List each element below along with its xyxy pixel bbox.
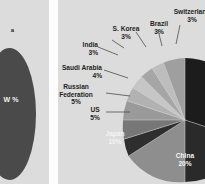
label-saudi-arabia-pct: 4% [58,72,102,80]
label-india-name: India [83,41,98,48]
label-india-pct: 3% [58,49,98,57]
label-russian-federation: Russian Federation 5% [58,83,104,106]
label-s-korea-pct: 3% [106,33,146,41]
label-india: India 3% [58,41,98,56]
left-pie-slice-name: W [4,96,11,103]
left-pie-slice-label: W % [0,96,24,105]
label-russian-federation-name2: Federation [58,91,104,99]
label-china-pct: 20% [168,160,202,168]
left-panel-top-label: a [0,27,14,34]
pie-chart-figure: a W % [0,0,205,184]
label-s-korea-name: S. Korea [113,25,140,32]
label-switzerland: Switzerland 3% [170,8,205,23]
label-switzerland-name: Switzerland [174,8,205,15]
label-us-pct: 5% [82,114,108,122]
label-saudi-arabia-name: Saudi Arabia [62,64,102,71]
panel-divider [49,0,58,184]
label-us-name: US [90,106,99,113]
left-pie-slice [0,48,36,180]
label-saudi-arabia: Saudi Arabia 4% [58,64,102,79]
label-japan-pct: 10% [98,138,132,146]
label-brazil-pct: 3% [144,28,174,36]
right-chart-panel: India 3% Saudi Arabia 4% Russian Federat… [58,0,205,184]
label-switzerland-pct: 3% [170,16,205,24]
label-us: US 5% [82,106,108,121]
label-s-korea: S. Korea 3% [106,25,146,40]
left-chart-panel: a W % [0,0,49,184]
label-japan-name: Japan [105,130,124,137]
label-japan: Japan 10% [98,130,132,145]
pie-chart: India 3% Saudi Arabia 4% Russian Federat… [58,0,205,184]
left-pie-slice-pct: % [12,96,18,103]
label-china: China 20% [168,152,202,167]
label-russian-federation-name: Russian [63,83,89,90]
label-brazil-name: Brazil [150,20,168,27]
label-china-name: China [176,152,194,159]
label-russian-federation-pct: 5% [58,98,104,106]
